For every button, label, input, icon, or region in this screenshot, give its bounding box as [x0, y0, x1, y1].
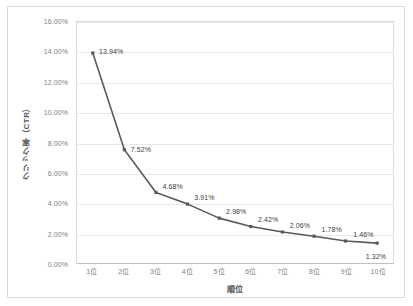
data-point-label: 1.32%	[366, 252, 386, 259]
data-point-label: 7.52%	[131, 145, 151, 152]
data-point-label: 2.42%	[258, 216, 278, 223]
data-point-marker	[186, 203, 189, 206]
x-axis-tick-label: 7位	[277, 266, 288, 276]
data-point-label: 13.94%	[99, 48, 123, 55]
x-axis-title: 順位	[76, 283, 394, 294]
x-axis-tick-label: 4位	[182, 266, 193, 276]
x-axis-tick-label: 5位	[214, 266, 225, 276]
data-point-marker	[281, 230, 284, 233]
data-point-marker	[312, 235, 315, 238]
y-axis-tick-labels: 0.00%2.00%4.00%6.00%8.00%10.00%12.00%14.…	[8, 21, 72, 264]
y-axis-tick-label: 8.00%	[48, 139, 68, 146]
y-axis-tick-label: 4.00%	[48, 200, 68, 207]
y-axis-tick-label: 16.00%	[44, 18, 68, 25]
data-point-marker	[91, 51, 94, 54]
data-point-label: 2.98%	[226, 207, 246, 214]
y-axis-tick-label: 2.00%	[48, 230, 68, 237]
y-axis-tick-label: 12.00%	[44, 78, 68, 85]
y-axis-tick-label: 0.00%	[48, 261, 68, 268]
data-point-label: 2.06%	[290, 221, 310, 228]
data-point-marker	[376, 242, 379, 245]
y-axis-tick-label: 14.00%	[44, 48, 68, 55]
x-axis-tick-label: 9位	[341, 266, 352, 276]
x-axis-tick-label: 10位	[371, 266, 386, 276]
x-axis-tick-label: 8位	[309, 266, 320, 276]
x-axis-tick-labels: 1位2位3位4位5位6位7位8位9位10位	[76, 266, 394, 280]
data-point-label: 4.68%	[163, 182, 183, 189]
data-point-marker	[249, 225, 252, 228]
x-axis-tick-label: 1位	[86, 266, 97, 276]
chart-frame: クリック率（CTR） 0.00%2.00%4.00%6.00%8.00%10.0…	[7, 6, 405, 298]
x-axis-tick-label: 2位	[118, 266, 129, 276]
y-axis-tick-label: 10.00%	[44, 109, 68, 116]
plot-area	[76, 21, 394, 264]
x-axis-tick-label: 3位	[150, 266, 161, 276]
data-point-marker	[123, 148, 126, 151]
data-point-marker	[218, 217, 221, 220]
series-line-chart	[77, 22, 393, 263]
data-point-marker	[344, 239, 347, 242]
data-point-label: 1.78%	[322, 225, 342, 232]
data-point-label: 3.91%	[194, 193, 214, 200]
data-point-label: 1.46%	[353, 230, 373, 237]
data-point-marker	[154, 191, 157, 194]
y-axis-tick-label: 6.00%	[48, 169, 68, 176]
x-axis-tick-label: 6位	[245, 266, 256, 276]
